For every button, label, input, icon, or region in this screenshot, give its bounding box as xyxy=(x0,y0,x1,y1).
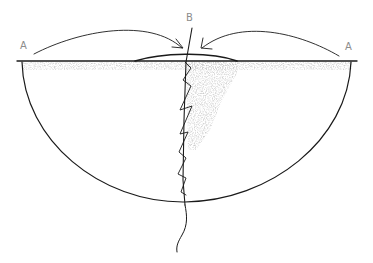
label-b-top: B xyxy=(186,12,193,23)
shading-center xyxy=(186,62,240,150)
label-a-right: A xyxy=(345,41,352,52)
right-arrow xyxy=(202,31,339,56)
label-a-left: A xyxy=(20,40,27,51)
tail-line xyxy=(177,205,187,252)
left-arrowhead-icon xyxy=(172,39,183,48)
left-arrow xyxy=(34,30,182,54)
semicircle-diagram: A A B xyxy=(0,0,373,263)
